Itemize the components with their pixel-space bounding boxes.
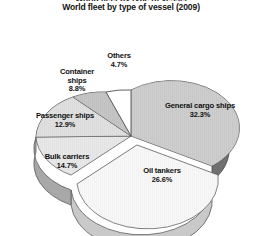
slice-label-passenger-ships: Passenger ships 12.9% xyxy=(21,112,109,129)
slice-label-general-cargo-ships: General cargo ships 32.3% xyxy=(148,102,252,119)
slice-label-general-cargo-ships-value: 32.3% xyxy=(148,111,252,120)
slice-label-container-ships: Container ships 8.8% xyxy=(50,68,104,94)
pie-chart: Others 4.7% Container ships 8.8% Passeng… xyxy=(0,14,262,236)
slice-label-passenger-ships-value: 12.9% xyxy=(21,121,109,130)
title-cut-off-line: World fleet by type of vessel xyxy=(0,0,262,1)
title-cut-off-text: World fleet by type of vessel xyxy=(0,0,262,1)
slice-label-bulk-carriers: Bulk carriers 14.7% xyxy=(29,153,105,170)
slice-label-oil-tankers-value: 26.6% xyxy=(126,176,198,185)
slice-label-container-ships-value: 8.8% xyxy=(50,85,104,94)
slice-label-bulk-carriers-value: 14.7% xyxy=(29,162,105,171)
page-title: World fleet by type of vessel (2009) xyxy=(0,2,262,12)
slice-label-others: Others 4.7% xyxy=(96,52,142,69)
chart-page: World fleet by type of vessel World flee… xyxy=(0,0,262,236)
slice-label-oil-tankers: Oil tankers 26.6% xyxy=(126,167,198,184)
